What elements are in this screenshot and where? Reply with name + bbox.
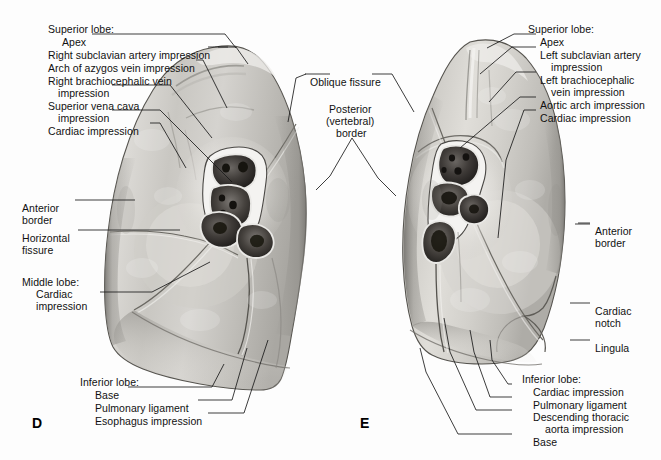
- superior-vena-cava-impression-l1: Superior vena cava: [48, 101, 139, 113]
- cardiac-impression-d: Cardiac impression: [48, 126, 139, 138]
- horizontal-fissure-l1: Horizontal: [22, 233, 70, 245]
- superior-lobe-heading-d: Superior lobe:: [48, 24, 114, 36]
- aortic-arch-impression: Aortic arch impression: [540, 100, 645, 112]
- bronchus-lumen-e2: [463, 153, 470, 160]
- left-subclavian-artery-impression-l2: impression: [551, 62, 602, 74]
- bronchus-lumen-d1: [222, 163, 230, 172]
- inferior-lobe-heading-e: Inferior lobe:: [522, 374, 581, 386]
- artery-lumen-e1: [441, 192, 457, 205]
- vein-lumen-d1: [213, 222, 227, 234]
- left-brachiocephalic-vein-impression-l1: Left brachiocephalic: [540, 75, 634, 87]
- apex-e: Apex: [540, 37, 564, 49]
- anterior-border-d-l1: Anterior: [22, 203, 59, 215]
- right-subclavian-artery-impression: Right subclavian artery impression: [48, 50, 210, 62]
- posterior-vertebral-border-l3: border: [336, 128, 367, 140]
- cardiac-notch-l1: Cardiac: [595, 306, 632, 318]
- descending-thoracic-aorta-impression-l2: aorta impression: [545, 424, 623, 436]
- bronchus-lumen-e3: [454, 167, 461, 175]
- anterior-border-e-l2: border: [595, 238, 626, 250]
- left-main-bronchus-e: [438, 146, 479, 187]
- anterior-border-d-l2: border: [22, 215, 53, 227]
- panel-letter-d: D: [32, 415, 42, 431]
- middle-lobe-cardiac-l2: impression: [36, 301, 87, 313]
- segmental-lumen-e: [469, 204, 479, 213]
- pulmonary-ligament-e: Pulmonary ligament: [533, 400, 627, 412]
- esophagus-impression: Esophagus impression: [95, 416, 202, 428]
- cardiac-notch-l2: notch: [595, 318, 621, 330]
- apex-d: Apex: [62, 37, 86, 49]
- right-brachiocephalic-vein-impression-l1: Right brachiocephalic vein: [48, 76, 172, 88]
- superior-vena-cava-impression-l2: impression: [58, 113, 109, 125]
- bronchus-lumen-e1: [449, 155, 455, 162]
- left-brachiocephalic-vein-impression-l2: vein impression: [551, 87, 625, 99]
- pulmonary-ligament-d: Pulmonary ligament: [95, 403, 189, 415]
- descending-thoracic-aorta-impression-l1: Descending thoracic: [533, 412, 629, 424]
- vein-lumen-d2: [250, 235, 264, 247]
- anterior-border-e-l1: Anterior: [595, 226, 632, 238]
- artery-lumen-d1: [219, 194, 225, 201]
- left-subclavian-artery-impression-l1: Left subclavian artery: [540, 50, 641, 62]
- superior-lobe-heading-e: Superior lobe:: [528, 24, 594, 36]
- bronchus-lumen-d2: [238, 162, 248, 173]
- posterior-vertebral-border-l2: (vertebral): [326, 116, 374, 128]
- lingula: Lingula: [595, 343, 629, 355]
- middle-lobe-cardiac-l1: Cardiac: [36, 289, 73, 301]
- base-d: Base: [95, 390, 119, 402]
- posterior-vertebral-border-l1: Posterior: [329, 104, 371, 116]
- arch-of-azygos-vein-impression: Arch of azygos vein impression: [48, 63, 195, 75]
- cardiac-impression-e: Cardiac impression: [540, 113, 631, 125]
- horizontal-fissure-l2: fissure: [22, 245, 53, 257]
- panel-letter-e: E: [360, 415, 369, 431]
- base-e: Base: [533, 437, 557, 449]
- bronchus-lumen-e4: [441, 167, 446, 173]
- cardiac-impression-inferior-e: Cardiac impression: [533, 387, 624, 399]
- artery-lumen-d2: [229, 201, 237, 209]
- middle-lobe-heading: Middle lobe:: [22, 277, 79, 289]
- right-brachiocephalic-vein-impression-l2: impression: [58, 88, 109, 100]
- inferior-lobe-heading-d: Inferior lobe:: [80, 377, 139, 389]
- oblique-fissure: Oblique fissure: [310, 77, 381, 89]
- vein-lumen-e1: [431, 230, 447, 252]
